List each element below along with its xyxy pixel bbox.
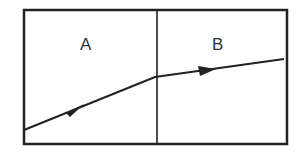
- refraction-diagram: [0, 0, 303, 156]
- region-a-label: A: [80, 35, 91, 55]
- arrow-icon-a: [66, 104, 84, 117]
- region-b-label: B: [212, 35, 223, 55]
- arrow-icon-b: [198, 66, 216, 76]
- ray-line: [24, 59, 284, 130]
